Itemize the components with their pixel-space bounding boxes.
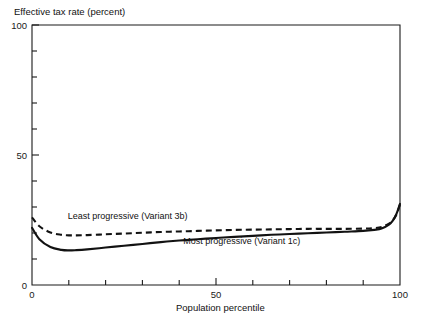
x-tick-label: 50 bbox=[211, 289, 222, 300]
effective-tax-rate-chart: Effective tax rate (percent) 050100 0501… bbox=[0, 0, 425, 331]
series-annotations: Least progressive (Variant 3b)Most progr… bbox=[68, 211, 300, 246]
y-axis-ticks bbox=[32, 25, 39, 259]
x-tick-label: 100 bbox=[392, 289, 408, 300]
x-axis-title: Population percentile bbox=[176, 302, 265, 313]
series-label-1: Most progressive (Variant 1c) bbox=[183, 236, 300, 246]
plot-frame bbox=[32, 25, 400, 285]
x-axis-ticks bbox=[69, 278, 363, 285]
y-tick-label: 50 bbox=[16, 150, 27, 161]
chart-figure: Effective tax rate (percent) 050100 0501… bbox=[0, 0, 425, 331]
y-axis-title: Effective tax rate (percent) bbox=[14, 6, 125, 17]
y-tick-label: 100 bbox=[11, 20, 27, 31]
series-label-0: Least progressive (Variant 3b) bbox=[68, 211, 188, 221]
x-axis-tick-labels: 050100 bbox=[29, 289, 408, 300]
y-tick-label: 0 bbox=[22, 280, 27, 291]
y-axis-tick-labels: 050100 bbox=[11, 20, 27, 291]
x-tick-label: 0 bbox=[29, 289, 34, 300]
